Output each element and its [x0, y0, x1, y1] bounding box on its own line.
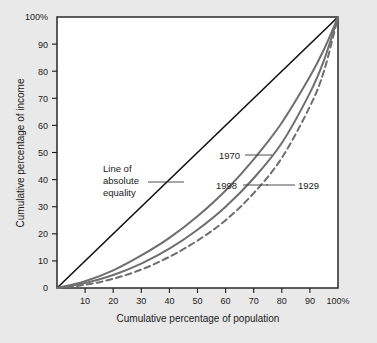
- x-axis-title: Cumulative percentage of population: [117, 313, 280, 324]
- annotation-1998: 1998: [216, 180, 237, 191]
- y-tick-label-70: 70: [38, 94, 48, 104]
- x-tick-label-60: 60: [221, 296, 231, 306]
- x-tick-label-40: 40: [164, 296, 174, 306]
- x-tick-label-70: 70: [249, 296, 259, 306]
- y-tick-label-20: 20: [38, 229, 48, 239]
- annotation-1929: 1929: [298, 180, 319, 191]
- annotation-1970: 1970: [219, 150, 240, 161]
- annotation-equality-line3: equality: [103, 187, 136, 198]
- x-tick-label-30: 30: [136, 296, 146, 306]
- lorenz-curve-figure: 0102030405060708090100% 1020304050607080…: [0, 0, 377, 343]
- y-tick-label-80: 80: [38, 67, 48, 77]
- annotation-equality-line2: absolute: [103, 175, 139, 186]
- y-tick-label-60: 60: [38, 121, 48, 131]
- x-tick-label-20: 20: [108, 296, 118, 306]
- y-tick-label-10: 10: [38, 256, 48, 266]
- x-tick-label-80: 80: [277, 296, 287, 306]
- x-tick-label-10: 10: [80, 296, 90, 306]
- x-tick-label-90: 90: [305, 296, 315, 306]
- y-tick-label-0: 0: [43, 283, 48, 293]
- x-tick-label-100: 100%: [326, 296, 349, 306]
- chart-canvas: 0102030405060708090100% 1020304050607080…: [0, 0, 377, 343]
- y-tick-label-30: 30: [38, 202, 48, 212]
- y-tick-label-40: 40: [38, 175, 48, 185]
- x-tick-label-50: 50: [192, 296, 202, 306]
- y-axis-title: Cumulative percentage of income: [15, 78, 26, 227]
- annotation-equality-line1: Line of: [103, 163, 132, 174]
- y-tick-label-100: 100%: [25, 12, 48, 22]
- y-tick-label-90: 90: [38, 40, 48, 50]
- y-tick-label-50: 50: [38, 148, 48, 158]
